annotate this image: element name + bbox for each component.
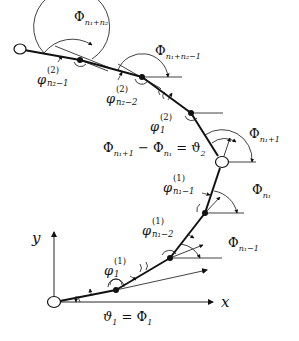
- extension-arrows: [55, 46, 230, 290]
- origin-joint: [48, 297, 61, 308]
- leader-arrows: [58, 56, 210, 280]
- label-Phi-n1-plus-n2: Φn₁+n₂: [74, 10, 108, 23]
- label-phi-1-2: φ(2)1: [150, 120, 159, 133]
- label-Phi-n1: Φn₁: [252, 183, 271, 196]
- joint-n8: [113, 287, 119, 293]
- label-theta1-equals-Phi1: ϑ1 = Φ1: [103, 310, 152, 323]
- y-axis-label: y: [32, 231, 40, 246]
- label-Phi-n1-plus-1: Φn₁+1: [249, 127, 280, 140]
- joint-n6: [202, 210, 208, 216]
- label-Phi-n1-plus-n2-minus-1: Φn₁+n₂−1: [155, 44, 201, 57]
- label-phi-1-1: φ(1)1: [104, 264, 113, 277]
- x-axis-label: x: [221, 295, 229, 310]
- label-phi-n1-minus-1: φ(1)n₁−1: [163, 181, 172, 194]
- axes: [54, 232, 213, 302]
- label-phi-n2-minus-2: φ(2)n₂−2: [106, 92, 115, 105]
- label-theta2-equation: Φn₁+1 − Φn₁ = ϑ2: [103, 141, 206, 154]
- joint-n7: [167, 255, 173, 261]
- joint-n3: [139, 74, 145, 80]
- label-phi-n1-minus-2: φ(1)n₁−2: [142, 224, 151, 237]
- joint-n4: [188, 110, 194, 116]
- label-phi-n2-minus-1: φ(2)n₂−1: [37, 73, 46, 86]
- label-Phi-n1-minus-1: Φn₁−1: [228, 236, 259, 249]
- branch-joint: [216, 157, 229, 168]
- kinematic-chain-diagram: [0, 0, 299, 341]
- end-joint: [14, 44, 26, 54]
- joint-n2: [77, 57, 83, 63]
